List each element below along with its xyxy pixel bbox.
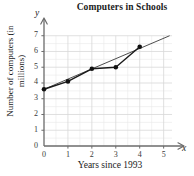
data-point-4 <box>137 44 142 49</box>
data-point-1 <box>66 79 71 84</box>
chart-figure: Computers in Schools Number of computers… <box>0 0 194 176</box>
y-tick-label: 6 <box>31 46 41 55</box>
y-tick-label: 7 <box>31 30 41 39</box>
x-tick-label: 0 <box>39 150 49 159</box>
x-tick-label: 3 <box>111 150 121 159</box>
x-tick-label: 4 <box>135 150 145 159</box>
data-point-2 <box>90 67 95 72</box>
y-tick-label: 2 <box>31 109 41 118</box>
y-tick-label: 0 <box>31 141 41 150</box>
data-point-0 <box>42 87 47 92</box>
y-tick-label: 3 <box>31 93 41 102</box>
y-tick-label: 1 <box>31 125 41 134</box>
x-tick-label: 2 <box>87 150 97 159</box>
y-tick-label: 4 <box>31 77 41 86</box>
x-tick-label: 1 <box>63 150 73 159</box>
data-point-3 <box>113 65 118 70</box>
y-tick-label: 5 <box>31 62 41 71</box>
x-tick-label: 5 <box>159 150 169 159</box>
